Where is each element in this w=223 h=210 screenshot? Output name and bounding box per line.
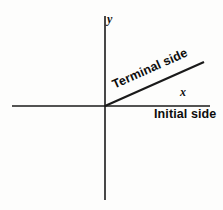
initial-side-label: Initial side [154, 108, 216, 121]
angle-standard-position-figure: y x Initial side Terminal side [0, 0, 223, 210]
coordinate-plane-svg [0, 0, 223, 210]
y-axis-label: y [107, 13, 112, 25]
x-axis-label: x [180, 86, 186, 98]
